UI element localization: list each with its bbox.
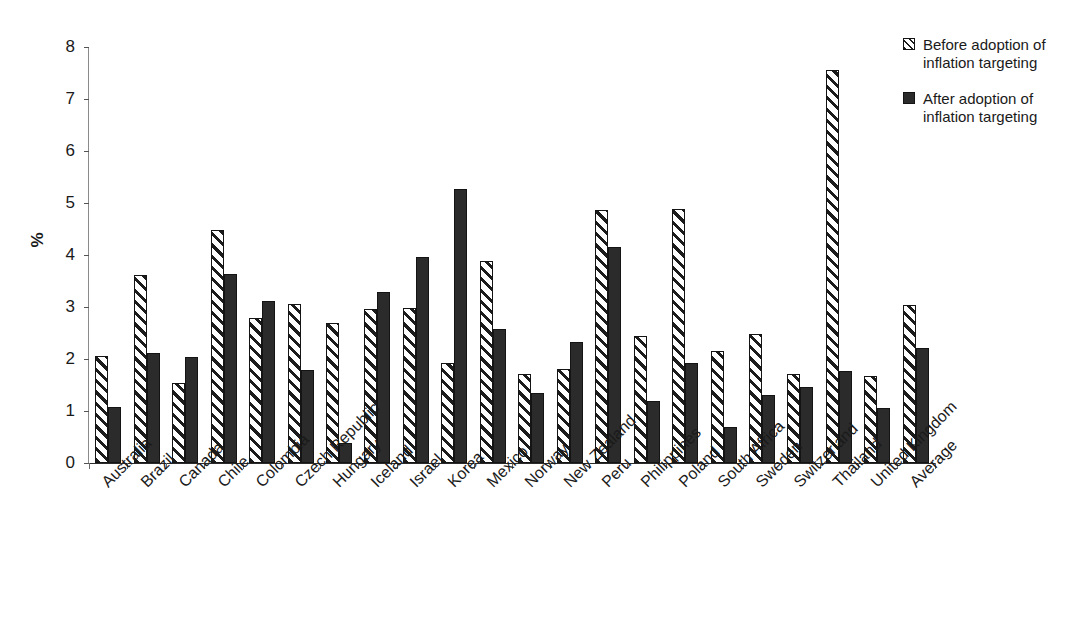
bar-before [95, 356, 108, 463]
bar-group [672, 47, 698, 463]
bar-after [877, 408, 890, 463]
bar-before [249, 318, 262, 463]
bar-after [185, 357, 198, 463]
bar-before [441, 363, 454, 463]
bar-before [403, 308, 416, 463]
legend-label-line-1: After adoption of [923, 90, 1073, 108]
legend-entry: After adoption ofinflation targeting [903, 90, 1073, 126]
y-axis-tick-label: 2 [49, 350, 75, 367]
bar-after [262, 301, 275, 463]
bar-before [595, 210, 608, 463]
bar-group [749, 47, 775, 463]
bar-after [493, 329, 506, 463]
bar-after [454, 189, 467, 463]
bar-group [557, 47, 583, 463]
legend-label-line-2: inflation targeting [923, 108, 1073, 126]
bar-group [518, 47, 544, 463]
y-axis-tick-label: 1 [49, 402, 75, 419]
y-axis-tick-label: 8 [49, 38, 75, 55]
legend-label-line-1: Before adoption of [923, 36, 1073, 54]
bar-group [95, 47, 121, 463]
bar-before [826, 70, 839, 463]
legend-label-line-2: inflation targeting [923, 54, 1073, 72]
bar-group [826, 47, 852, 463]
plot-area [89, 47, 935, 463]
bar-before [672, 209, 685, 463]
bar-group [480, 47, 506, 463]
bar-group [134, 47, 160, 463]
bar-group [441, 47, 467, 463]
bar-group [403, 47, 429, 463]
chart-legend: Before adoption ofinflation targetingAft… [903, 36, 1073, 144]
bar-group [211, 47, 237, 463]
bar-before [172, 383, 185, 463]
legend-entry: Before adoption ofinflation targeting [903, 36, 1073, 72]
bar-group [634, 47, 660, 463]
bar-group [326, 47, 352, 463]
bar-after [108, 407, 121, 463]
hatched-swatch-icon [903, 38, 915, 50]
solid-swatch-icon [903, 92, 915, 104]
y-axis-title: % [28, 220, 48, 260]
bar-before [634, 336, 647, 463]
x-axis-tick-mark [89, 463, 90, 469]
bar-group [288, 47, 314, 463]
bar-group [595, 47, 621, 463]
y-axis-tick-label: 5 [49, 194, 75, 211]
bar-before [211, 230, 224, 463]
bar-chart: % 012345678 AustraliaBrazilCanadaChileCo… [0, 0, 1073, 632]
y-axis-tick-label: 3 [49, 298, 75, 315]
y-axis-tick-label: 6 [49, 142, 75, 159]
bar-before [480, 261, 493, 463]
bar-after [377, 292, 390, 463]
bar-group [172, 47, 198, 463]
bar-after [224, 274, 237, 463]
bar-group [864, 47, 890, 463]
bar-after [531, 393, 544, 463]
y-axis-tick-label: 0 [49, 454, 75, 471]
y-axis-tick-label: 4 [49, 246, 75, 263]
bar-group [249, 47, 275, 463]
bar-after [647, 401, 660, 463]
y-axis-tick-label: 7 [49, 90, 75, 107]
bar-group [711, 47, 737, 463]
bar-group [787, 47, 813, 463]
bar-after [570, 342, 583, 463]
bar-after [416, 257, 429, 463]
